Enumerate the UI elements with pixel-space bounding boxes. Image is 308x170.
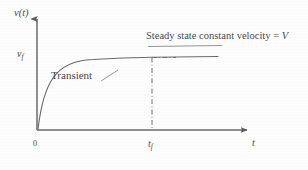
velocity-time-figure: v(t) vf Transient Steady state constant …	[0, 0, 308, 170]
steady-state-symbol: V	[282, 30, 288, 41]
steady-state-text: Steady state constant velocity =	[146, 30, 282, 41]
y-tick-label-vf: vf	[17, 49, 24, 60]
y-axis-label: v(t)	[14, 8, 29, 19]
tf-subscript: f	[151, 142, 153, 151]
steady-state-leader-line	[148, 46, 222, 47]
vf-subscript: f	[21, 52, 23, 61]
x-axis-label: t	[252, 138, 255, 148]
x-tick-label-tf: tf	[148, 139, 153, 150]
transient-leader-line	[101, 70, 118, 81]
plot-canvas	[0, 0, 308, 170]
velocity-curve	[38, 57, 218, 130]
transient-annotation: Transient	[51, 70, 92, 81]
steady-state-annotation: Steady state constant velocity = V	[146, 31, 288, 42]
origin-label: 0	[33, 140, 37, 148]
